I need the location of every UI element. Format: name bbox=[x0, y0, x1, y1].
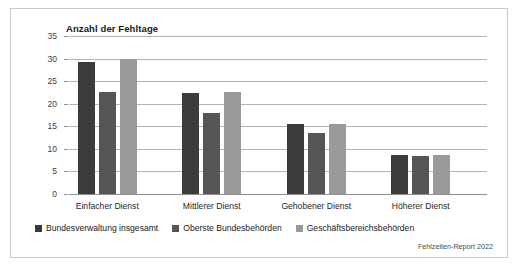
legend-swatch-icon bbox=[172, 225, 179, 232]
chart-legend: Bundesverwaltung insgesamtOberste Bundes… bbox=[35, 223, 414, 233]
bar bbox=[78, 62, 95, 194]
y-axis-tick-mark bbox=[64, 126, 68, 127]
y-axis-tick-mark bbox=[64, 149, 68, 150]
y-axis-tick-mark bbox=[64, 81, 68, 82]
bar bbox=[308, 133, 325, 194]
bar bbox=[391, 155, 408, 194]
bar bbox=[287, 124, 304, 194]
y-axis-tick-mark bbox=[64, 104, 68, 105]
y-axis-tick-label: 35 bbox=[37, 32, 57, 41]
bar bbox=[99, 92, 116, 194]
bar bbox=[182, 93, 199, 194]
legend-label: Geschäftsbereichsbehörden bbox=[307, 223, 415, 233]
bar bbox=[120, 59, 137, 194]
bar bbox=[329, 124, 346, 194]
legend-entry: Bundesverwaltung insgesamt bbox=[35, 223, 158, 233]
figure-frame: Anzahl der Fehltage 05101520253035 Einfa… bbox=[10, 8, 508, 258]
legend-entry: Geschäftsbereichsbehörden bbox=[296, 223, 415, 233]
legend-label: Bundesverwaltung insgesamt bbox=[46, 223, 158, 233]
bar bbox=[412, 156, 429, 194]
y-axis-tick-mark bbox=[64, 171, 68, 172]
x-axis-category-label: Gehobener Dienst bbox=[266, 201, 366, 211]
gridline bbox=[69, 36, 487, 37]
page-title: Anzahl der Fehltage bbox=[66, 23, 158, 34]
x-axis-category-label: Mittlerer Dienst bbox=[162, 201, 262, 211]
x-axis-category-label: Einfacher Dienst bbox=[57, 201, 157, 211]
y-axis-tick-label: 15 bbox=[37, 122, 57, 131]
y-axis-tick-label: 0 bbox=[37, 190, 57, 199]
y-axis-tick-mark bbox=[64, 59, 68, 60]
x-axis-category-label: Höherer Dienst bbox=[371, 201, 471, 211]
plot-area: 05101520253035 bbox=[69, 36, 487, 194]
gridline bbox=[69, 194, 487, 195]
y-axis-tick-label: 10 bbox=[37, 145, 57, 154]
y-axis-tick-label: 25 bbox=[37, 77, 57, 86]
bar bbox=[224, 92, 241, 194]
y-axis-tick-mark bbox=[64, 36, 68, 37]
legend-entry: Oberste Bundesbehörden bbox=[172, 223, 281, 233]
y-axis-tick-mark bbox=[64, 194, 68, 195]
legend-label: Oberste Bundesbehörden bbox=[183, 223, 281, 233]
bar bbox=[433, 155, 450, 194]
legend-swatch-icon bbox=[35, 225, 42, 232]
y-axis-tick-label: 5 bbox=[37, 167, 57, 176]
source-note: Fehlzeiten-Report 2022 bbox=[418, 242, 493, 251]
y-axis-tick-label: 20 bbox=[37, 100, 57, 109]
legend-swatch-icon bbox=[296, 225, 303, 232]
bar bbox=[203, 113, 220, 194]
y-axis-tick-label: 30 bbox=[37, 55, 57, 64]
